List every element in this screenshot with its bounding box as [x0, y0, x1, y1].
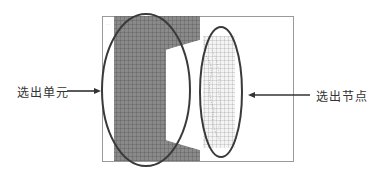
right-arrow-head	[248, 92, 255, 98]
left-arrow-head	[94, 88, 101, 94]
select-nodes-label: 选出节点	[316, 87, 368, 104]
select-elements-label: 选出单元	[17, 83, 69, 100]
selected-nodes-mesh	[203, 36, 235, 148]
selected-elements-mesh	[114, 16, 166, 161]
axis-marker: · ·	[106, 22, 110, 27]
